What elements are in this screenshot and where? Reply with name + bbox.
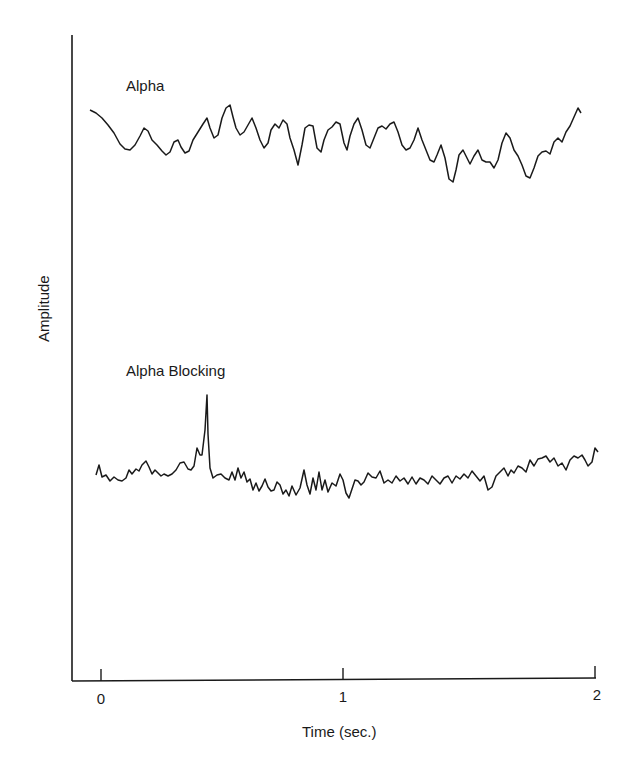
y-axis-label: Amplitude	[35, 275, 52, 342]
x-tick-label-1: 1	[339, 688, 347, 705]
x-tick-label-2: 2	[593, 686, 601, 703]
x-axis-label: Time (sec.)	[302, 723, 376, 740]
alpha-trace	[90, 105, 581, 182]
alpha-blocking-label: Alpha Blocking	[126, 362, 225, 379]
eeg-chart	[0, 0, 631, 771]
x-axis	[72, 678, 596, 681]
alpha-blocking-trace	[96, 395, 598, 498]
alpha-label: Alpha	[126, 77, 164, 94]
x-tick-label-0: 0	[97, 690, 105, 707]
